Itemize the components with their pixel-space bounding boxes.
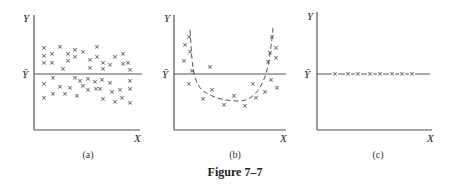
data-point: × [355, 70, 361, 78]
data-point: × [100, 59, 106, 67]
data-point: × [49, 59, 55, 67]
y-axis-label: Y [164, 12, 172, 24]
data-point: × [250, 80, 256, 88]
data-point: × [399, 70, 405, 78]
data-point: × [41, 80, 47, 88]
data-point: × [94, 43, 100, 51]
data-point: × [49, 50, 55, 58]
x-axis-label: X [133, 132, 142, 144]
mean-label: Ȳ [304, 68, 312, 80]
data-point: × [221, 101, 227, 109]
data-point: × [242, 102, 248, 110]
data-point: × [265, 58, 271, 66]
data-point: × [209, 86, 215, 94]
data-point: × [87, 56, 93, 64]
data-point: × [181, 57, 187, 65]
data-point: × [109, 88, 115, 96]
data-point: × [67, 84, 73, 92]
data-point: × [127, 85, 133, 93]
data-point: × [186, 80, 192, 88]
panel-c: Y Ȳ X (c) ×××××××× [304, 10, 435, 161]
data-point: × [87, 64, 93, 72]
data-point: × [332, 70, 338, 78]
data-point: × [100, 95, 106, 103]
data-point: × [127, 77, 133, 85]
data-point: × [187, 48, 193, 56]
data-point: × [107, 79, 113, 87]
data-point: × [231, 92, 237, 100]
data-point: × [50, 90, 56, 98]
data-point: × [41, 94, 47, 102]
data-point: × [85, 86, 91, 94]
data-point: × [273, 44, 279, 52]
panel-b: Y Ȳ X (b) ×××××××××××××××××××××× [162, 12, 288, 161]
data-points: ××××××××××××××××××××××××××××××××××××××××… [41, 43, 133, 107]
data-point: × [107, 61, 113, 69]
data-point: × [200, 95, 206, 103]
data-point: × [112, 53, 118, 61]
data-point: × [268, 76, 274, 84]
trend-curve [190, 25, 273, 101]
data-point: × [97, 85, 103, 93]
panel-caption: (a) [82, 149, 93, 161]
panel-caption: (b) [229, 149, 241, 161]
data-point: × [50, 74, 56, 82]
data-point: × [72, 53, 78, 61]
data-point: × [253, 94, 259, 102]
mean-label: Ȳ [22, 68, 30, 80]
x-axis-label: X [426, 132, 435, 144]
data-point: × [189, 67, 195, 75]
data-point: × [112, 98, 118, 106]
data-point: × [41, 59, 47, 67]
data-point: × [367, 70, 373, 78]
data-point: × [127, 66, 133, 74]
data-point: × [377, 70, 383, 78]
data-point: × [80, 48, 86, 56]
figure-7-7: Y Ȳ X (a) ××××××××××××××××××××××××××××××… [0, 0, 459, 184]
data-point: × [267, 49, 273, 57]
data-point: × [389, 70, 395, 78]
data-point: × [74, 92, 80, 100]
data-point: × [345, 70, 351, 78]
data-point: × [41, 44, 47, 52]
data-point: × [94, 53, 100, 61]
data-point: × [207, 63, 213, 71]
data-point: × [269, 33, 275, 41]
data-point: × [57, 43, 63, 51]
mean-label: Ȳ [162, 68, 170, 80]
data-point: × [99, 76, 105, 84]
data-points: ×××××××××××××××××××××× [181, 33, 280, 110]
y-axis-label: Y [23, 12, 31, 24]
figure-title: Figure 7–7 [208, 165, 263, 179]
panel-caption: (c) [372, 149, 383, 161]
data-point: × [186, 33, 192, 41]
data-point: × [409, 70, 415, 78]
data-point: × [119, 94, 125, 102]
data-point: × [127, 99, 133, 107]
data-point: × [120, 50, 126, 58]
data-point: × [274, 84, 280, 92]
data-point: × [262, 88, 268, 96]
data-point: × [85, 75, 91, 83]
y-axis-label: Y [307, 10, 315, 22]
data-point: × [273, 54, 279, 62]
panel-a: Y Ȳ X (a) ××××××××××××××××××××××××××××××… [22, 12, 142, 161]
data-point: × [65, 57, 71, 65]
data-point: × [60, 65, 66, 73]
data-point: × [117, 86, 123, 94]
x-axis-label: X [279, 132, 288, 144]
